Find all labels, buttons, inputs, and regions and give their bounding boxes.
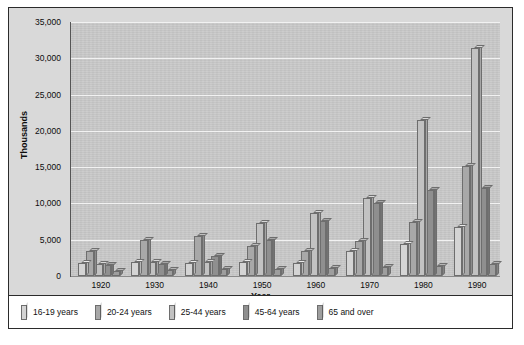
bar-side-face <box>380 200 383 276</box>
bar-front <box>454 227 462 276</box>
legend-swatch <box>95 305 101 320</box>
bar-top-face <box>160 261 171 264</box>
x-axis-tick-label: 1920 <box>77 280 125 290</box>
bar-top-face <box>259 220 270 223</box>
bar-group <box>346 22 389 276</box>
bar-side-face <box>272 237 275 276</box>
bar-top-face <box>474 45 485 48</box>
bar-top-face <box>482 185 493 188</box>
bar-side-face <box>255 243 258 276</box>
y-axis-tick-label: 0 <box>9 271 61 281</box>
legend-swatch <box>243 305 249 320</box>
y-axis-tick-label: 10,000 <box>9 198 61 208</box>
chart-area: 05,00010,00015,00020,00025,00030,00035,0… <box>9 8 512 297</box>
bar <box>131 262 139 276</box>
bar-top-face <box>313 210 324 213</box>
bar-front <box>400 244 408 276</box>
bar-top-face <box>197 233 208 236</box>
bar-top-face <box>106 262 117 265</box>
y-axis-tick-label: 35,000 <box>9 17 61 27</box>
bar-side-face <box>479 45 482 276</box>
y-axis-tick-label: 5,000 <box>9 235 61 245</box>
y-axis-tick-label: 15,000 <box>9 162 61 172</box>
legend-item[interactable]: 65 and over <box>317 305 374 320</box>
bar-top-face <box>321 218 332 221</box>
chart-frame: 05,00010,00015,00020,00025,00030,00035,0… <box>8 7 513 329</box>
bar-group <box>400 22 443 276</box>
bar <box>293 263 301 276</box>
bar-top-face <box>366 195 377 198</box>
bar-side-face <box>219 253 222 276</box>
legend-label: 16-19 years <box>33 307 78 317</box>
bar <box>78 263 86 276</box>
bar-side-face <box>434 187 437 276</box>
bar-side-face <box>326 218 329 276</box>
bar <box>239 262 247 276</box>
legend-item[interactable]: 25-44 years <box>169 305 226 320</box>
bar-front <box>78 263 86 276</box>
bar-front <box>131 262 139 276</box>
bar <box>185 263 193 276</box>
x-axis-tick-label: 1960 <box>292 280 340 290</box>
x-axis-tick-label: 1930 <box>131 280 179 290</box>
legend-item[interactable]: 16-19 years <box>21 305 78 320</box>
bar-group <box>239 22 282 276</box>
legend-label: 65 and over <box>329 307 374 317</box>
legend-swatch <box>169 305 175 320</box>
bar-side-face <box>202 233 205 276</box>
bar-side-face <box>371 195 374 276</box>
legend-label: 45-64 years <box>255 307 300 317</box>
legend-label: 20-24 years <box>107 307 152 317</box>
gridline <box>70 276 500 277</box>
bar-side-face <box>318 210 321 276</box>
x-axis-tick-label: 1990 <box>453 280 501 290</box>
bar <box>400 244 408 276</box>
bar-group <box>293 22 336 276</box>
legend-label: 25-44 years <box>181 307 226 317</box>
bar-top-face <box>214 253 225 256</box>
bar-side-face <box>425 117 428 276</box>
bar-side-face <box>148 237 151 276</box>
bar <box>454 227 462 276</box>
y-axis-tick-label: 30,000 <box>9 53 61 63</box>
chart-screenshot: 05,00010,00015,00020,00025,00030,00035,0… <box>0 0 524 345</box>
bar-side-face <box>309 248 312 276</box>
bar-side-face <box>354 248 357 276</box>
bar-group <box>454 22 497 276</box>
bar-side-face <box>487 185 490 276</box>
y-axis-title: Thousands <box>19 95 29 175</box>
x-axis-tick-label: 1970 <box>346 280 394 290</box>
bar-side-face <box>408 241 411 276</box>
legend-item[interactable]: 20-24 years <box>95 305 152 320</box>
x-axis-tick-label: 1940 <box>184 280 232 290</box>
bar-side-face <box>470 163 473 276</box>
bar-side-face <box>462 224 465 276</box>
bar-group <box>78 22 121 276</box>
legend-item[interactable]: 45-64 years <box>243 305 300 320</box>
bar-top-face <box>89 248 100 251</box>
bar-side-face <box>94 248 97 276</box>
legend-swatch <box>21 305 27 320</box>
legend-swatch <box>317 305 323 320</box>
bar-front <box>293 263 301 276</box>
bar-group <box>131 22 174 276</box>
y-axis-tick-label: 25,000 <box>9 90 61 100</box>
y-axis-line <box>70 22 71 277</box>
bar-side-face <box>417 219 420 276</box>
y-axis-labels: 05,00010,00015,00020,00025,00030,00035,0… <box>9 22 67 276</box>
bar <box>346 251 354 276</box>
x-axis-tick-label: 1950 <box>238 280 286 290</box>
bar-top-face <box>429 187 440 190</box>
x-axis-tick-label: 1980 <box>399 280 447 290</box>
chart-legend: 16-19 years20-24 years25-44 years45-64 y… <box>9 295 512 328</box>
bar-top-face <box>420 117 431 120</box>
bar-front <box>185 263 193 276</box>
bar-side-face <box>264 220 267 276</box>
y-axis-tick-label: 20,000 <box>9 126 61 136</box>
bar-side-face <box>363 238 366 276</box>
bar-top-face <box>375 200 386 203</box>
bar-front <box>346 251 354 276</box>
bar-front <box>239 262 247 276</box>
bar-group <box>185 22 228 276</box>
bar-top-face <box>491 261 502 264</box>
